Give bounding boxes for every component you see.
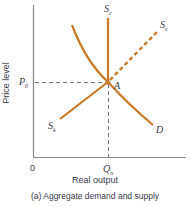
extended-supply-curve xyxy=(110,31,158,80)
y-axis-label: Price level xyxy=(1,62,11,104)
d-label: D xyxy=(156,125,163,135)
sk-label: Sk xyxy=(48,121,56,133)
demand-curve xyxy=(72,25,153,125)
sc-label: Sc xyxy=(104,4,112,16)
a-label: A xyxy=(114,81,120,91)
keynesian-supply-curve xyxy=(60,82,108,119)
x-axis-label: Real output xyxy=(0,176,190,185)
origin-label: 0 xyxy=(30,164,35,173)
equilibrium-point xyxy=(106,80,110,84)
chart-caption: (a) Aggregate demand and supply xyxy=(0,192,190,201)
p0-label: P0 xyxy=(19,77,28,89)
se-label: Se xyxy=(160,20,168,32)
chart: Sc Se Sk D A P0 Qn 0 Price level Real ou… xyxy=(0,0,190,207)
